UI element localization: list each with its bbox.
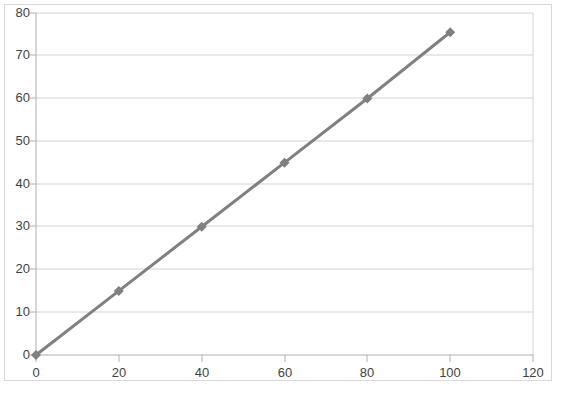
data-series-line (31, 27, 455, 360)
y-tick-label-40: 40 (0, 177, 30, 190)
y-tick-label-60: 60 (0, 91, 30, 104)
x-tick-label-20: 20 (99, 366, 139, 379)
x-axis-ticks (36, 355, 533, 362)
chart-container: 80 70 60 50 40 30 20 10 0 0 20 40 60 80 … (0, 0, 563, 411)
y-tick-label-30: 30 (0, 219, 30, 232)
x-tick-label-80: 80 (347, 366, 387, 379)
x-tick-label-40: 40 (182, 366, 222, 379)
x-tick-label-60: 60 (265, 366, 305, 379)
y-tick-label-20: 20 (0, 262, 30, 275)
x-tick-label-100: 100 (430, 366, 470, 379)
y-axis-ticks (30, 13, 36, 355)
y-tick-label-50: 50 (0, 134, 30, 147)
chart-plot-area (0, 0, 563, 411)
y-tick-label-10: 10 (0, 305, 30, 318)
x-tick-label-0: 0 (16, 366, 56, 379)
y-tick-label-80: 80 (0, 6, 30, 19)
series-line-0 (36, 32, 450, 355)
y-tick-label-0: 0 (0, 348, 30, 361)
x-tick-label-120: 120 (513, 366, 553, 379)
y-tick-label-70: 70 (0, 48, 30, 61)
